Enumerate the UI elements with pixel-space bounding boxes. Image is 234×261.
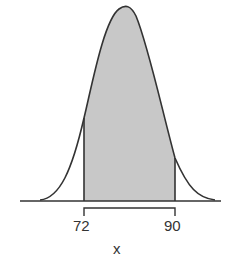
x-axis-label: x (113, 240, 121, 257)
range-bracket (84, 208, 175, 216)
normal-curve-chart (0, 0, 234, 261)
tick-72: 72 (73, 217, 90, 234)
tick-90: 90 (164, 217, 181, 234)
